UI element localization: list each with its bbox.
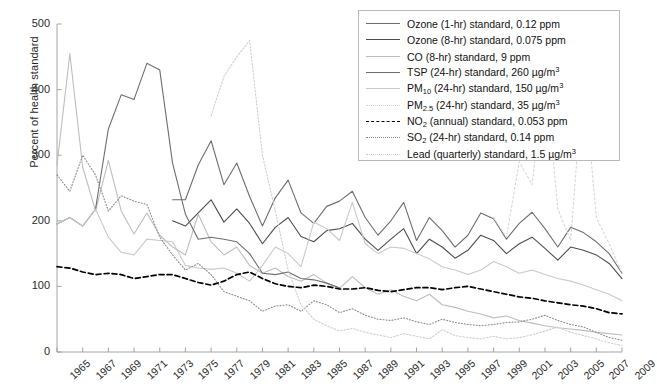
legend-line-swatch bbox=[366, 132, 400, 144]
legend-item-label: Ozone (1-hr) standard, 0.12 ppm bbox=[407, 18, 560, 30]
legend-item[interactable]: Ozone (8-hr) standard, 0.075 ppm bbox=[359, 32, 619, 48]
series-line bbox=[57, 63, 340, 287]
legend-item-label: Ozone (8-hr) standard, 0.075 ppm bbox=[407, 34, 566, 46]
legend-item-label: Lead (quarterly) standard, 1.5 µg/m3 bbox=[407, 148, 576, 162]
legend-line-swatch bbox=[366, 34, 400, 46]
legend-item-label: PM2.5 (24-hr) standard, 35 µg/m3 bbox=[407, 99, 560, 113]
legend-item-label: CO (8-hr) standard, 9 ppm bbox=[407, 51, 530, 63]
legend-item-label: TSP (24-hr) standard, 260 µg/m3 bbox=[407, 66, 559, 80]
legend-line-swatch bbox=[366, 18, 400, 30]
legend-item[interactable]: PM10 (24-hr) standard, 150 µg/m3 bbox=[359, 81, 619, 97]
series-line bbox=[57, 202, 622, 300]
legend-item[interactable]: CO (8-hr) standard, 9 ppm bbox=[359, 49, 619, 65]
legend-line-swatch bbox=[366, 67, 400, 79]
legend-line-swatch bbox=[366, 51, 400, 63]
legend-item[interactable]: NO2 (annual) standard, 0.053 ppm bbox=[359, 114, 619, 130]
legend-item[interactable]: PM2.5 (24-hr) standard, 35 µg/m3 bbox=[359, 97, 619, 113]
series-line bbox=[57, 155, 622, 340]
legend-line-swatch bbox=[366, 83, 400, 95]
legend-item[interactable]: SO2 (24-hr) standard, 0.14 ppm bbox=[359, 130, 619, 146]
legend-box[interactable]: Ozone (1-hr) standard, 0.12 ppmOzone (8-… bbox=[358, 10, 620, 161]
legend-item[interactable]: Ozone (1-hr) standard, 0.12 ppm bbox=[359, 16, 619, 32]
series-line bbox=[57, 267, 622, 314]
legend-line-swatch bbox=[366, 116, 400, 128]
legend-line-swatch bbox=[366, 100, 400, 112]
legend-line-swatch bbox=[366, 149, 400, 161]
legend-item[interactable]: TSP (24-hr) standard, 260 µg/m3 bbox=[359, 65, 619, 81]
legend-item-label: PM10 (24-hr) standard, 150 µg/m3 bbox=[407, 82, 563, 96]
legend-item-label: NO2 (annual) standard, 0.053 ppm bbox=[407, 115, 568, 129]
legend-item-label: SO2 (24-hr) standard, 0.14 ppm bbox=[407, 131, 554, 145]
legend-item[interactable]: Lead (quarterly) standard, 1.5 µg/m3 bbox=[359, 146, 619, 162]
